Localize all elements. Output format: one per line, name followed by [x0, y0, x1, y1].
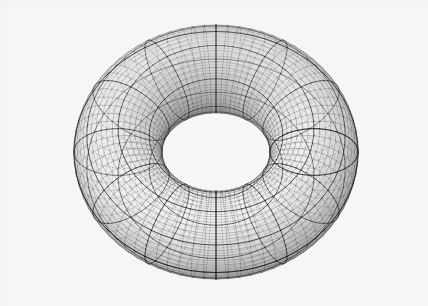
torus-figure-canvas	[0, 0, 428, 306]
torus-wireframe-svg	[0, 0, 428, 306]
